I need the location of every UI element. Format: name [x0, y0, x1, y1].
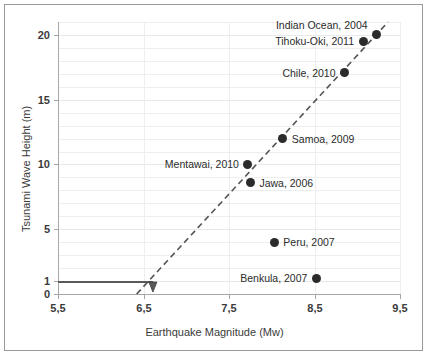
x-tick-label: 6,5 [124, 303, 164, 314]
y-tick [54, 100, 59, 101]
x-tick-label: 9,5 [380, 303, 420, 314]
gridline-v [144, 22, 145, 294]
y-tick [54, 35, 59, 36]
y-tick [54, 164, 59, 165]
x-tick-label: 8,5 [295, 303, 335, 314]
data-point-label: Tihoku-Oki, 2011 [275, 36, 354, 47]
data-point[interactable] [312, 274, 321, 283]
data-point-label: Peru, 2007 [283, 237, 334, 248]
data-point-label: Chile, 2010 [282, 68, 335, 79]
x-tick-label: 7,5 [209, 303, 249, 314]
gridline-v [315, 22, 316, 294]
x-tick [400, 294, 401, 299]
y-tick-label: 20 [4, 30, 50, 41]
data-point-label: Jawa, 2006 [259, 178, 313, 189]
data-point[interactable] [340, 68, 349, 77]
x-tick [315, 294, 316, 299]
x-axis-title: Earthquake Magnitude (Mw) [0, 326, 429, 338]
data-point[interactable] [246, 178, 255, 187]
data-point-label: Samoa, 2009 [292, 134, 354, 145]
y-tick-label: 15 [4, 95, 50, 106]
threshold-line [58, 281, 153, 283]
y-axis-line [58, 22, 59, 295]
x-tick [58, 294, 59, 299]
data-point-label: Benkula, 2007 [240, 273, 307, 284]
y-tick-label: 0 [4, 289, 50, 300]
gridline-v [400, 22, 401, 294]
data-point[interactable] [270, 238, 279, 247]
y-axis-title: Tsunami Wave Height (m) [20, 106, 32, 232]
chart-figure: 015101520 5,56,57,58,59,5 Tsunami Wave H… [0, 0, 429, 360]
data-point[interactable] [359, 37, 368, 46]
y-tick [54, 229, 59, 230]
data-point-label: Mentawai, 2010 [165, 159, 239, 170]
x-tick-label: 5,5 [38, 303, 78, 314]
x-tick [144, 294, 145, 299]
x-tick [229, 294, 230, 299]
y-tick-label: 1 [4, 276, 50, 287]
data-point-label: Indian Ocean, 2004 [276, 20, 368, 31]
